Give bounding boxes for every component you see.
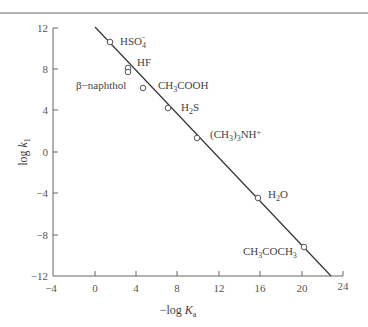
label-hso4: HSO4− xyxy=(120,33,146,50)
x-tick-4: 4 xyxy=(133,282,139,294)
label-ch3cooh: CH3COOH xyxy=(158,79,209,94)
point-h2o xyxy=(255,195,261,201)
y-axis-title: log k1 xyxy=(16,138,32,166)
x-tick-0: 0 xyxy=(92,282,98,294)
point-h2s xyxy=(165,105,171,111)
point-hf-2 xyxy=(125,69,131,75)
point-tma xyxy=(194,135,200,141)
label-hf: HF xyxy=(137,56,151,68)
label-acetone: CH3COCH3 xyxy=(243,245,297,260)
label-h2s: H2S xyxy=(181,101,199,116)
label-naphthol: β−naphthol xyxy=(76,79,126,91)
x-tick-neg4: −4 xyxy=(45,282,57,294)
y-tick-neg4: −4 xyxy=(36,187,48,199)
x-tick-20: 20 xyxy=(297,282,309,294)
y-axis xyxy=(53,28,58,276)
x-tick-12: 12 xyxy=(214,282,225,294)
y-tick-8: 8 xyxy=(43,63,49,75)
y-tick-neg8: −8 xyxy=(36,229,48,241)
label-tma: (CH3)3NH+ xyxy=(210,128,262,143)
chart: 12 8 4 0 −4 −8 −12 −4 0 4 8 12 16 20 24 … xyxy=(0,0,368,327)
y-tick-neg12: −12 xyxy=(31,270,48,282)
x-tick-8: 8 xyxy=(174,282,180,294)
x-axis xyxy=(53,271,343,276)
point-acetone xyxy=(301,244,307,250)
regression-line xyxy=(95,27,331,276)
x-tick-24: 24 xyxy=(338,280,350,292)
x-tick-labels: −4 0 4 8 12 16 20 24 xyxy=(45,280,349,294)
point-hso4 xyxy=(107,39,113,45)
point-naphthol xyxy=(140,85,146,91)
x-axis-title: −log Ka xyxy=(160,303,197,319)
label-h2o: H2O xyxy=(268,188,288,203)
point-labels: HSO4− HF β−naphthol CH3COOH H2S (CH3)3NH… xyxy=(76,33,297,260)
x-tick-16: 16 xyxy=(255,282,267,294)
y-tick-0: 0 xyxy=(43,146,49,158)
y-tick-12: 12 xyxy=(37,22,48,34)
y-tick-4: 4 xyxy=(43,104,49,116)
y-tick-labels: 12 8 4 0 −4 −8 −12 xyxy=(31,22,49,282)
